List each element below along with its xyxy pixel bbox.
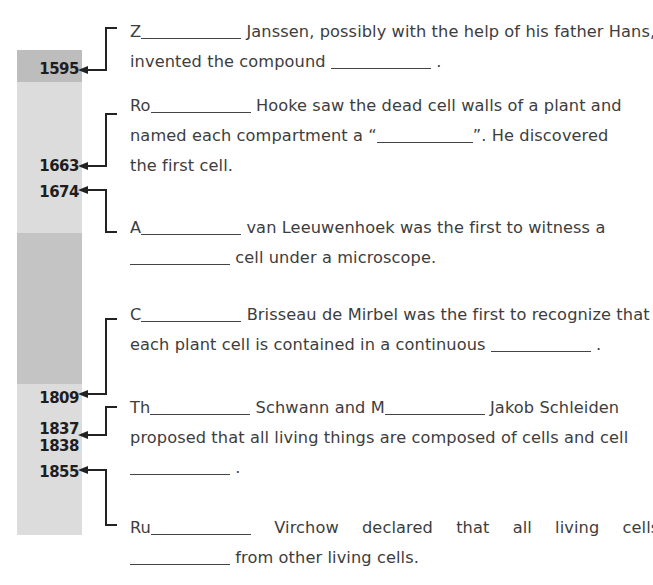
cropped-title-fragment xyxy=(270,0,510,4)
entry-hooke: Ro Hooke saw the dead cell walls of a pl… xyxy=(130,91,646,181)
arrow-icon xyxy=(78,466,88,474)
arrow-icon xyxy=(78,431,88,439)
entry-schwann-schleiden: Th Schwann and M Jakob Schleiden propose… xyxy=(130,393,646,483)
blank-first-name-janssen[interactable] xyxy=(141,22,241,39)
arrow-icon xyxy=(78,390,88,398)
year-label-1809: 1809 xyxy=(17,390,79,407)
timeline-segment-1700s xyxy=(17,233,82,384)
blank-first-name-schleiden[interactable] xyxy=(385,398,485,415)
timeline-bar: 1595 1663 1674 1809 1837 1838 1855 xyxy=(17,0,82,585)
year-label-1674: 1674 xyxy=(17,184,79,201)
entry-mirbel: C Brisseau de Mirbel was the first to re… xyxy=(130,300,646,360)
blank-compound-instrument[interactable] xyxy=(331,52,431,69)
year-label-1838: 1838 xyxy=(17,438,79,455)
blank-first-name-mirbel[interactable] xyxy=(141,305,241,322)
year-label-1663: 1663 xyxy=(17,158,79,175)
arrow-icon xyxy=(78,186,88,194)
year-label-1837: 1837 xyxy=(17,421,79,438)
blank-first-name-schwann[interactable] xyxy=(150,398,250,415)
arrow-icon xyxy=(78,66,88,74)
blank-cells-origin-verb[interactable] xyxy=(130,548,230,565)
blank-first-name-virchow[interactable] xyxy=(151,518,251,535)
entry-janssen: Z Janssen, possibly with the help of his… xyxy=(130,17,646,77)
entry-virchow: Ru Virchow declared that all living cell… xyxy=(130,513,646,573)
blank-first-name-hooke[interactable] xyxy=(151,96,251,113)
blank-continuous-structure[interactable] xyxy=(491,335,591,352)
blank-compartment-name[interactable] xyxy=(377,126,473,143)
blank-cell-products[interactable] xyxy=(130,458,230,475)
year-label-1855: 1855 xyxy=(17,464,79,481)
blank-first-name-leeuwenhoek[interactable] xyxy=(141,218,241,235)
entry-leeuwenhoek: A van Leeuwenhoek was the first to witne… xyxy=(130,213,646,273)
year-label-1595: 1595 xyxy=(17,61,79,78)
arrow-icon xyxy=(78,162,88,170)
blank-cell-type[interactable] xyxy=(130,248,230,265)
